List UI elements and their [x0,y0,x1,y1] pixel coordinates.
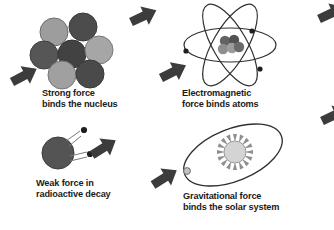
nucleon-neutron-dark-1 [69,13,97,41]
caption-line-2: binds the solar system [183,202,279,213]
caption-line-2: force binds atoms [182,99,259,110]
nucleon-proton-light-3 [48,61,76,89]
electron-dot-3 [257,66,262,71]
caption-line-2: radioactive decay [36,189,111,200]
caption-line-2: binds the nucleus [42,99,118,110]
caption-strong-force: Strong force binds the nucleus [42,88,118,110]
radioactive-decay-diagram [0,115,167,177]
panel-gravitational-force: Gravitational force binds the solar syst… [167,115,334,230]
arrow-top-right-inward [315,0,334,28]
caption-line-1: Gravitational force [183,191,279,202]
caption-line-1: Strong force [42,88,118,99]
solar-system-diagram [167,115,334,193]
electron-dot-2 [183,48,188,53]
panel-weak-force: Weak force in radioactive decay [0,115,167,230]
arrow-top-right-inward [127,1,161,31]
arrow-emission-outward [87,132,121,164]
caption-line-1: Electromagnetic [182,88,259,99]
atom-orbits-diagram [167,0,334,90]
caption-line-1: Weak force in [36,178,111,189]
atom-nucleon-3 [218,44,228,54]
nucleus-cluster-diagram [0,0,167,90]
caption-electromagnetic-force: Electromagnetic force binds atoms [182,88,259,110]
panel-electromagnetic-force: Electromagnetic force binds atoms [167,0,334,115]
sun-disc [224,141,246,163]
atom-nucleon-5 [234,42,244,52]
emitted-particle-1 [81,127,87,133]
sun [217,134,253,170]
decaying-nucleus [42,137,74,169]
nucleon-neutron-dark-4 [76,60,104,88]
panel-strong-force: Strong force binds the nucleus [0,0,167,115]
emission-trail-1a [66,131,80,141]
four-forces-figure: Strong force binds the nucleus [0,0,334,230]
planet [184,168,191,175]
caption-weak-force: Weak force in radioactive decay [36,178,111,200]
electron-dot-1 [249,28,254,33]
caption-gravitational-force: Gravitational force binds the solar syst… [183,191,279,213]
